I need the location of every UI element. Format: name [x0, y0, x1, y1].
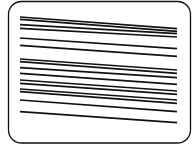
striped-card-diagram — [0, 0, 193, 149]
